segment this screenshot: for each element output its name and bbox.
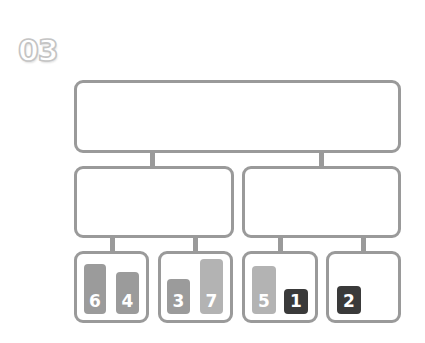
bar-value-7: 7: [200, 259, 223, 314]
connector-left-leaf2: [193, 237, 198, 252]
branch-node-left: [74, 166, 234, 238]
bar-value-1: 1: [284, 289, 308, 314]
connector-root-right: [319, 152, 324, 167]
branch-node-right: [242, 166, 401, 238]
connector-right-leaf1: [278, 237, 283, 252]
connector-left-leaf1: [110, 237, 115, 252]
root-node: [74, 80, 401, 153]
connector-root-left: [150, 152, 155, 167]
bar-value-6: 6: [84, 264, 106, 314]
bar-value-2: 2: [337, 286, 361, 314]
connector-right-leaf2: [361, 237, 366, 252]
bar-value-3: 3: [167, 279, 190, 314]
bar-value-4: 4: [116, 272, 139, 314]
bar-value-5: 5: [252, 266, 276, 314]
step-number: 03: [18, 33, 58, 68]
